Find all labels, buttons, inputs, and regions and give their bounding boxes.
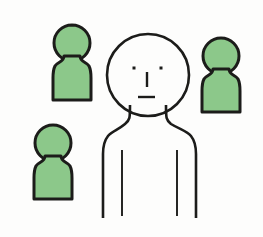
small-person-body-right [202, 69, 240, 112]
small-figure-top-left [53, 25, 91, 100]
main-figure [103, 34, 196, 218]
small-figure-right [202, 38, 240, 112]
right-eye-icon [160, 67, 163, 70]
left-eye-icon [133, 67, 136, 70]
small-figure-bottom-left [34, 125, 72, 199]
small-person-body-top-left [53, 56, 91, 100]
small-person-body-bottom-left [34, 156, 72, 199]
illustration-canvas [0, 0, 263, 237]
main-person-body [103, 105, 196, 218]
people-illustration-svg [0, 0, 263, 237]
